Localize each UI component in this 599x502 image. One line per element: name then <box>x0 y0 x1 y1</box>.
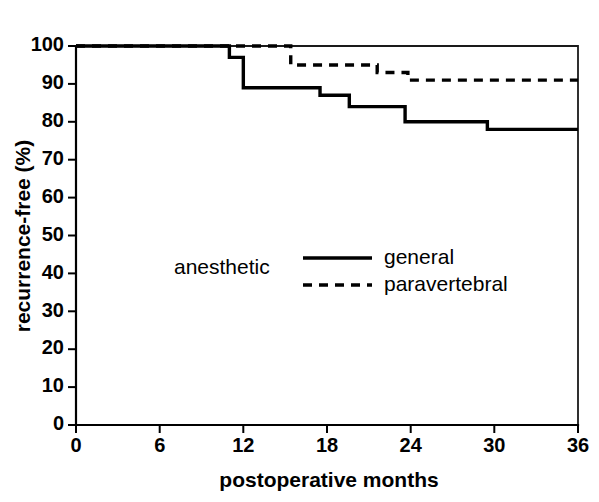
x-tick-label-0: 0 <box>70 434 81 456</box>
legend: anesthetic general paravertebral <box>174 245 508 295</box>
series-line-paravertebral <box>76 46 578 80</box>
kaplan-meier-plot: 100 90 80 70 60 50 40 30 20 10 0 0 6 12 <box>0 0 599 502</box>
plot-frame <box>76 46 578 425</box>
series-line-general <box>76 46 578 129</box>
x-axis-title: postoperative months <box>219 468 438 491</box>
y-tick-label-100: 100 <box>31 33 64 55</box>
x-axis-ticks <box>76 425 578 433</box>
y-axis-title: recurrence-free (%) <box>11 140 34 333</box>
y-tick-label-30: 30 <box>42 299 64 321</box>
y-tick-label-40: 40 <box>42 261 64 283</box>
legend-group-label: anesthetic <box>174 255 270 278</box>
y-axis-ticks <box>68 46 76 425</box>
y-tick-label-80: 80 <box>42 109 64 131</box>
chart-container: 100 90 80 70 60 50 40 30 20 10 0 0 6 12 <box>0 0 599 502</box>
y-tick-label-0: 0 <box>53 412 64 434</box>
x-tick-label-24: 24 <box>400 434 423 456</box>
y-tick-label-10: 10 <box>42 374 64 396</box>
legend-label-general: general <box>384 245 454 268</box>
y-tick-label-90: 90 <box>42 71 64 93</box>
y-tick-label-60: 60 <box>42 185 64 207</box>
y-tick-label-50: 50 <box>42 223 64 245</box>
x-tick-label-12: 12 <box>232 434 254 456</box>
frame-top-right <box>76 46 578 425</box>
x-axis-tick-labels: 0 6 12 18 24 30 36 <box>70 434 589 456</box>
y-axis-tick-labels: 100 90 80 70 60 50 40 30 20 10 0 <box>31 33 64 434</box>
legend-label-paravertebral: paravertebral <box>384 272 508 295</box>
x-tick-label-36: 36 <box>567 434 589 456</box>
y-tick-label-70: 70 <box>42 147 64 169</box>
x-tick-label-30: 30 <box>483 434 505 456</box>
x-tick-label-6: 6 <box>154 434 165 456</box>
x-tick-label-18: 18 <box>316 434 338 456</box>
y-tick-label-20: 20 <box>42 336 64 358</box>
series-group <box>76 46 578 129</box>
